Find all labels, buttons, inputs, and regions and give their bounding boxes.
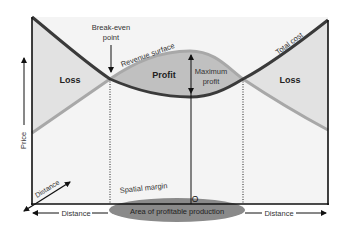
area-profitable-production-label: Area of profitable production xyxy=(130,207,224,216)
break-even-label-line2: point xyxy=(103,33,120,42)
break-even-label-line1: Break-even xyxy=(92,23,130,32)
optimum-point-label: O xyxy=(192,194,199,204)
distance-left-label: Distance xyxy=(61,209,90,218)
distance-right-label: Distance xyxy=(264,209,293,218)
loss-left-label: Loss xyxy=(59,75,80,85)
profit-label: Profit xyxy=(152,70,176,80)
profit-diagram: Break-even point Revenue surface Total c… xyxy=(0,0,349,225)
maximum-profit-label-line1: Maximum xyxy=(195,67,228,76)
loss-right-label: Loss xyxy=(279,75,300,85)
price-axis-label: Price xyxy=(19,132,28,149)
maximum-profit-label-line2: profit xyxy=(203,77,221,86)
